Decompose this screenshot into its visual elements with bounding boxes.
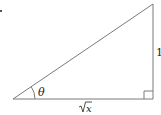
edge-mark: [0, 10, 2, 12]
angle-label-theta: θ: [38, 86, 45, 99]
right-triangle-diagram: θ 1 x: [0, 0, 161, 115]
angle-arc: [31, 87, 35, 99]
radicand-x: x: [86, 103, 92, 114]
adjacent-side-label: x: [79, 102, 92, 114]
triangle-svg: θ 1 x: [0, 0, 161, 115]
hypotenuse-line: [13, 4, 153, 99]
right-angle-marker: [144, 91, 153, 99]
opposite-side-label: 1: [156, 46, 161, 59]
